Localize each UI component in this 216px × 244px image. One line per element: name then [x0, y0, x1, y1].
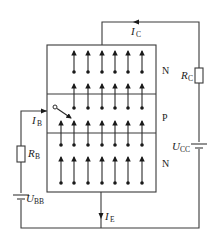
svg-text:C: C: [136, 30, 141, 39]
transistor-diagram: N P N I C I B I E R C R B U CC U BB: [0, 0, 216, 244]
region-label-emitter: N: [162, 158, 169, 169]
svg-text:R: R: [180, 69, 188, 81]
svg-text:B: B: [35, 152, 40, 161]
label-ic: I C: [130, 25, 141, 39]
svg-text:C: C: [188, 74, 193, 83]
label-ie: I E: [104, 210, 115, 224]
base-current-arrow: [41, 109, 47, 114]
label-ib: I B: [31, 114, 42, 128]
resistor-rc: [195, 68, 203, 83]
svg-text:BB: BB: [34, 197, 44, 206]
svg-text:E: E: [110, 215, 115, 224]
svg-text:CC: CC: [180, 145, 190, 154]
resistor-rb: [17, 146, 25, 162]
label-ucc: U CC: [172, 140, 190, 154]
battery-ucc: [190, 142, 208, 149]
label-rc: R C: [180, 69, 193, 83]
svg-text:R: R: [27, 147, 35, 159]
collector-current-arrow: [133, 20, 139, 25]
region-label-collector: N: [162, 65, 169, 76]
label-rb: R B: [27, 147, 40, 161]
region-label-base: P: [162, 112, 168, 123]
emitter-current-arrow: [99, 213, 104, 219]
svg-text:B: B: [37, 119, 42, 128]
label-ubb: U BB: [26, 192, 44, 206]
